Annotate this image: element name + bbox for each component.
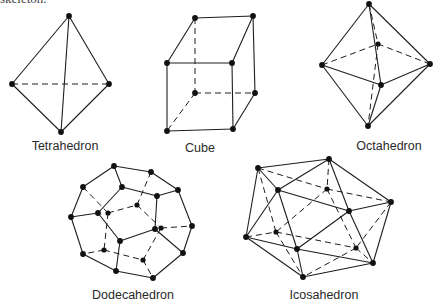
vertex-dot (192, 90, 198, 96)
vertex-dot (189, 223, 195, 229)
vertex-dot (346, 208, 352, 214)
vertex-dot (113, 268, 119, 274)
vertex-dot (180, 250, 186, 256)
visible-edge (349, 202, 391, 211)
vertex-dot (192, 15, 198, 21)
icosahedron-label: Icosahedron (290, 288, 359, 302)
hidden-edge (327, 159, 329, 189)
visible-edge (71, 187, 83, 217)
visible-edge (253, 16, 255, 93)
visible-edge (195, 16, 253, 18)
hidden-edge (137, 172, 151, 205)
visible-edge (61, 16, 69, 132)
dodecahedron-label: Dodecahedron (92, 288, 174, 302)
hidden-edge (378, 44, 430, 64)
hidden-edge (108, 205, 137, 213)
visible-edge (157, 190, 178, 196)
hidden-edge (327, 189, 356, 248)
vertex-dot (273, 229, 278, 234)
visible-edge (116, 271, 153, 278)
vertex-dot (154, 193, 160, 199)
vertex-dot (175, 187, 181, 193)
visible-edge (151, 172, 178, 190)
visible-edge (232, 16, 253, 63)
vertex-dot (164, 128, 170, 134)
vertex-dot (365, 123, 371, 129)
visible-edge (278, 190, 297, 249)
visible-edge (178, 190, 192, 226)
vertex-dot (255, 165, 261, 171)
hidden-edge (104, 250, 143, 260)
visible-edge (246, 237, 303, 277)
vertex-dot (117, 238, 123, 244)
visible-edge (155, 196, 157, 229)
vertex-dot (66, 13, 72, 19)
vertex-dot (300, 274, 306, 280)
vertex-dot (294, 246, 300, 252)
vertex-dot (243, 234, 249, 240)
vertex-dot (95, 210, 101, 216)
vertex-dot (105, 210, 110, 215)
hidden-edge (246, 232, 276, 237)
visible-edge (167, 18, 195, 63)
visible-edge (349, 211, 373, 263)
visible-edge (114, 166, 122, 187)
visible-edge (83, 254, 116, 271)
vertex-dot (378, 82, 384, 88)
visible-edge (322, 65, 381, 85)
hidden-edge (83, 187, 108, 213)
visible-edge (322, 65, 368, 126)
visible-edge (297, 249, 373, 263)
visible-edge (98, 213, 120, 241)
vertex-dot (324, 186, 329, 191)
visible-edge (232, 63, 233, 129)
visible-edge (114, 166, 151, 172)
visible-edge (246, 168, 258, 237)
vertex-dot (106, 81, 112, 87)
visible-edge (167, 129, 233, 131)
octahedron-figure (319, 1, 433, 129)
vertex-dot (134, 202, 139, 207)
vertex-dot (111, 163, 117, 169)
vertex-dot (353, 245, 358, 250)
hidden-edge (276, 189, 327, 232)
hidden-edge (258, 168, 327, 189)
tetrahedron-figure (9, 13, 112, 135)
cube-label: Cube (185, 141, 215, 155)
visible-edge (303, 263, 373, 277)
visible-edge (153, 253, 183, 278)
vertex-dot (101, 247, 106, 252)
hidden-edge (104, 213, 108, 250)
vertex-dot (119, 184, 125, 190)
vertex-dot (140, 257, 145, 262)
vertex-dot (68, 214, 74, 220)
visible-edge (183, 226, 192, 253)
icosahedron-figure (243, 156, 394, 280)
tetrahedron-label: Tetrahedron (32, 139, 99, 153)
visible-edge (71, 217, 83, 254)
visible-edge (246, 190, 278, 237)
vertex-dot (275, 187, 281, 193)
hidden-edge (276, 232, 303, 277)
visible-edge (116, 241, 120, 271)
visible-edge (120, 229, 155, 241)
vertex-dot (370, 260, 376, 266)
visible-edge (122, 187, 157, 196)
visible-edge (71, 213, 98, 217)
vertex-dot (164, 60, 170, 66)
hidden-edge (83, 250, 104, 254)
visible-edge (12, 16, 69, 84)
visible-edge (258, 159, 329, 168)
visible-edge (329, 159, 349, 211)
visible-edge (278, 159, 329, 190)
vertex-dot (250, 13, 256, 19)
vertex-dot (158, 225, 163, 230)
visible-edge (61, 84, 109, 132)
vertex-dot (9, 81, 15, 87)
visible-edge (69, 16, 109, 84)
hidden-edge (303, 248, 356, 277)
visible-edge (83, 166, 114, 187)
visible-edge (369, 4, 430, 64)
vertex-dot (150, 275, 156, 281)
hidden-edge (137, 205, 161, 228)
